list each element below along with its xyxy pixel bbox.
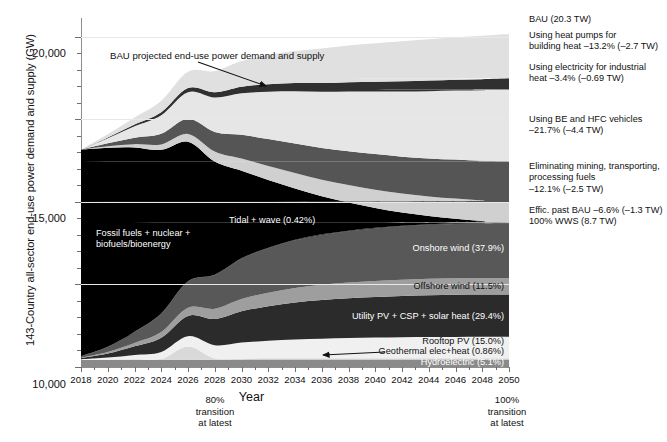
x-tick-minor [148, 367, 149, 370]
y-tick-minor [77, 350, 81, 351]
transition-80-note: 80% transition at latest [155, 394, 275, 429]
x-tick-label: 2050 [498, 374, 519, 385]
x-tick-minor [282, 367, 283, 370]
x-tick-label: 2034 [284, 374, 305, 385]
bau-callout-text: BAU projected end-use power demand and s… [110, 50, 324, 61]
right-label-be-hfc-vehicles: Using BE and HFC vehicles –21.7% (–4.4 T… [529, 114, 642, 137]
inner-label-offshore-wind: Offshore wind (11.5%) [268, 281, 504, 292]
gridline [81, 37, 509, 38]
y-tick-minor [77, 70, 81, 71]
y-tick-minor [77, 235, 81, 236]
gridline [81, 119, 509, 120]
y-tick-minor [77, 169, 81, 170]
inner-label-hydroelectric: Hydroelectric (5.1%) [300, 357, 504, 368]
x-tick [135, 367, 136, 372]
x-tick-minor [228, 367, 229, 370]
y-tick: 20,000 [75, 37, 81, 38]
x-tick [161, 367, 162, 372]
x-tick-label: 2030 [231, 374, 252, 385]
x-tick [215, 367, 216, 372]
x-tick-label: 2028 [204, 374, 225, 385]
x-tick-label: 2026 [177, 374, 198, 385]
x-tick-label: 2024 [151, 374, 172, 385]
right-label-heat-pumps: Using heat pumps for building heat –13.2… [529, 30, 658, 53]
y-tick-minor [77, 334, 81, 335]
y-tick-minor [77, 103, 81, 104]
y-tick-minor [77, 317, 81, 318]
y-tick: 10,000 [75, 202, 81, 203]
y-tick-minor [77, 136, 81, 137]
y-tick-label: 15,000 [32, 212, 66, 224]
x-tick-label: 2036 [311, 374, 332, 385]
y-tick-minor [77, 185, 81, 186]
x-tick [188, 367, 189, 372]
x-tick-minor [175, 367, 176, 370]
y-tick-minor [77, 53, 81, 54]
y-tick-minor [77, 251, 81, 252]
y-tick-minor [77, 152, 81, 153]
y-tick-minor [77, 301, 81, 302]
x-tick-label: 2040 [365, 374, 386, 385]
x-tick-minor [255, 367, 256, 370]
x-tick [268, 367, 269, 372]
inner-label-onshore-wind: Onshore wind (37.9%) [268, 243, 504, 254]
y-tick-minor [77, 86, 81, 87]
inner-label-geothermal: Geothermal elec+heat (0.86%) [268, 346, 504, 357]
x-tick-minor [121, 367, 122, 370]
y-tick: 5,000 [75, 284, 81, 285]
right-label-effic-wws: Effic. past BAU –6.6% (–1.3 TW) 100% WWS… [529, 205, 662, 228]
x-tick-label: 2048 [472, 374, 493, 385]
x-tick-label: 2020 [97, 374, 118, 385]
x-tick-label: 2032 [258, 374, 279, 385]
y-tick-label: 20,000 [32, 47, 66, 59]
right-label-bau: BAU (20.3 TW) [529, 14, 591, 25]
y-tick: 15,000 [75, 119, 81, 120]
y-tick-label: 10,000 [32, 378, 66, 390]
y-tick-minor [77, 268, 81, 269]
x-tick-label: 2038 [338, 374, 359, 385]
chart-figure: 143-Country all-sector end-use power dem… [0, 0, 667, 442]
x-tick [108, 367, 109, 372]
x-tick-label: 2018 [70, 374, 91, 385]
x-tick-label: 2044 [418, 374, 439, 385]
x-tick-label: 2046 [445, 374, 466, 385]
right-label-industrial-heat: Using electricity for industrial heat –3… [529, 62, 646, 85]
inner-label-utility-pv: Utility PV + CSP + solar heat (29.4%) [228, 311, 504, 322]
x-tick-label: 2022 [124, 374, 145, 385]
gridline [81, 202, 509, 203]
x-tick-minor [94, 367, 95, 370]
x-tick [81, 367, 82, 372]
x-tick-minor [201, 367, 202, 370]
y-tick-minor [77, 218, 81, 219]
x-tick [242, 367, 243, 372]
right-label-eliminating-mining: Eliminating mining, transporting, proces… [529, 161, 660, 195]
x-tick [295, 367, 296, 372]
x-tick-label: 2042 [391, 374, 412, 385]
inner-label-fossil: Fossil fuels + nuclear + biofuels/bioene… [96, 228, 190, 250]
x-tick [509, 367, 510, 372]
transition-100-note: 100% transition at latest [447, 394, 567, 429]
inner-label-tidal-wave: Tidal + wave (0.42%) [229, 215, 315, 226]
